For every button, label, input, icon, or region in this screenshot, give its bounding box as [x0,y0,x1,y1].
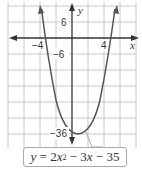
tick-label-6: 6 [61,17,67,28]
tick-label-neg4: −4 [32,40,44,51]
parabola-graph: 6 −6 −36 −4 4 x y [0,0,142,169]
eq-part: − 35 [93,149,120,165]
tick-label-neg36: −36 [50,128,67,139]
eq-part: − 3 [66,149,86,165]
tick-label-neg6: −6 [53,49,65,60]
equation-callout: y = 2x2 − 3x − 35 [23,147,127,167]
x-axis-label: x [129,39,135,51]
y-axis [69,3,75,145]
eq-part: = 2 [36,149,56,165]
y-axis-label: y [77,4,83,16]
tick-label-4: 4 [101,40,107,51]
